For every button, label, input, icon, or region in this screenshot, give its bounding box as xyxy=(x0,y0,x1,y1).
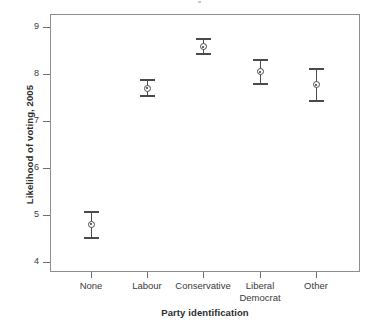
error-bar-cap-lower xyxy=(253,83,268,85)
error-bar-cap-upper xyxy=(196,38,211,40)
y-tick-label: 7 xyxy=(0,115,39,125)
y-tick-label: 4 xyxy=(0,256,39,266)
x-tick-mark xyxy=(147,272,148,278)
error-bar-cap-upper xyxy=(309,68,324,70)
data-marker-center-dot xyxy=(315,84,317,86)
x-tick-mark xyxy=(260,272,261,278)
y-tick-mark xyxy=(43,215,50,216)
x-tick-label-other: Other xyxy=(270,280,362,292)
x-tick-mark xyxy=(316,272,317,278)
y-tick-mark xyxy=(43,27,50,28)
error-bar-cap-lower xyxy=(84,237,99,239)
error-bar-cap-lower xyxy=(140,95,155,97)
y-tick-mark xyxy=(43,121,50,122)
data-marker-center-dot xyxy=(202,46,204,48)
error-bar-cap-lower xyxy=(196,53,211,55)
chart-container: Likelihood of voting, 2005 9 8 7 6 5 4 N… xyxy=(0,0,375,332)
data-marker-center-dot xyxy=(259,71,261,73)
x-tick-label-line1: Other xyxy=(304,280,328,291)
error-bar-cap-upper xyxy=(140,79,155,81)
image-artifact-speck xyxy=(198,1,201,3)
y-tick-mark xyxy=(43,74,50,75)
x-tick-mark xyxy=(91,272,92,278)
y-tick-label: 6 xyxy=(0,162,39,172)
data-marker-center-dot xyxy=(146,87,148,89)
y-tick-mark xyxy=(43,262,50,263)
x-tick-mark xyxy=(203,272,204,278)
data-marker-center-dot xyxy=(90,223,92,225)
x-tick-label-line1: None xyxy=(80,280,103,291)
error-bar-cap-upper xyxy=(253,59,268,61)
x-axis-title: Party identification xyxy=(50,307,360,318)
x-tick-label-line2: Democrat xyxy=(214,292,306,304)
y-tick-mark xyxy=(43,168,50,169)
y-tick-label: 8 xyxy=(0,68,39,78)
y-tick-label: 5 xyxy=(0,209,39,219)
y-tick-label: 9 xyxy=(0,21,39,31)
error-bar-cap-upper xyxy=(84,211,99,213)
error-bar-cap-lower xyxy=(309,100,324,102)
